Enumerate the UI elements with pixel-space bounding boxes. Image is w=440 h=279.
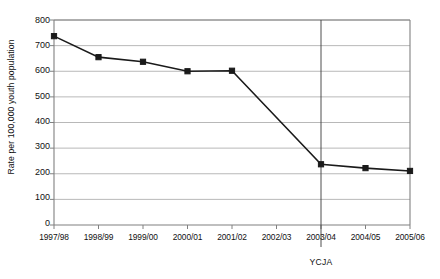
- data-point-marker[interactable]: [140, 59, 145, 64]
- ycja-annotation-label: YCJA: [310, 257, 333, 267]
- data-point-marker[interactable]: [363, 166, 368, 171]
- x-tick-label: 1999/00: [128, 232, 158, 242]
- data-point-marker[interactable]: [407, 168, 412, 173]
- data-point-marker[interactable]: [318, 162, 323, 167]
- data-point-marker[interactable]: [229, 68, 234, 73]
- x-tick-label: 2001/02: [217, 232, 247, 242]
- x-tick-label: 2000/01: [173, 232, 203, 242]
- data-point-marker[interactable]: [51, 34, 56, 39]
- x-tick-label: 2004/05: [351, 232, 381, 242]
- x-tick-label: 2003/04: [306, 232, 336, 242]
- data-point-marker[interactable]: [96, 55, 101, 60]
- x-tick-label: 1998/99: [84, 232, 114, 242]
- x-tick-label: 2005/06: [395, 232, 425, 242]
- data-line: [54, 36, 410, 171]
- data-point-marker[interactable]: [185, 69, 190, 74]
- x-tick-label: 2002/03: [262, 232, 292, 242]
- x-tick-label: 1997/98: [39, 232, 69, 242]
- chart-container: Rate per 100,000 youth population 800 70…: [0, 0, 440, 279]
